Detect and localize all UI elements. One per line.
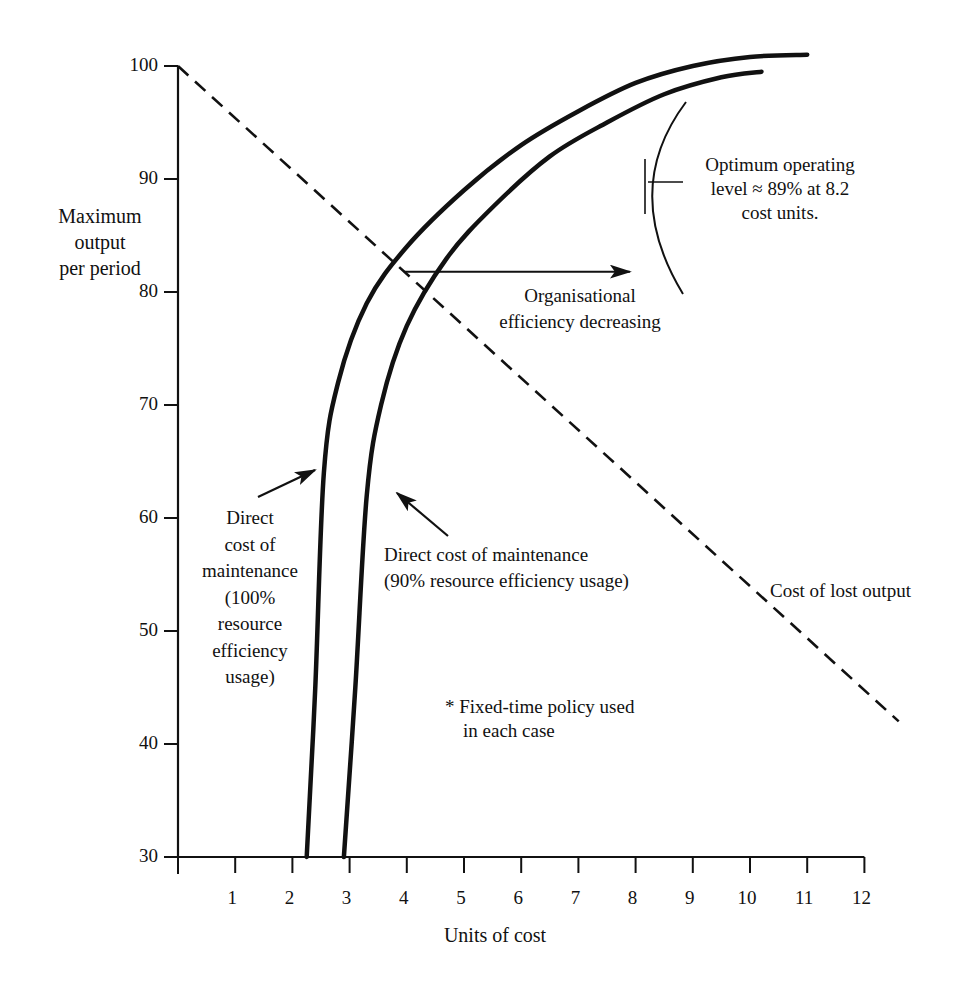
- annotation-line: maintenance: [190, 558, 310, 585]
- x-tick-label: 5: [446, 887, 476, 909]
- x-axis-label: Units of cost: [420, 924, 570, 946]
- annotation-line: * Fixed-time policy used: [445, 695, 634, 719]
- x-tick-label: 3: [332, 887, 362, 909]
- y-axis-label-line: per period: [40, 255, 160, 281]
- annotation-line: cost of: [190, 532, 310, 559]
- x-tick-label: 10: [732, 887, 762, 909]
- x-tick-label: 6: [503, 887, 533, 909]
- annotation-line: (100%: [190, 585, 310, 612]
- y-tick-label: 100: [112, 54, 158, 76]
- dc100-pointer-arrow: [258, 470, 315, 497]
- optimum-annotation: Optimum operating level ≈ 89% at 8.2 cos…: [690, 153, 870, 225]
- annotation-line: usage): [190, 664, 310, 691]
- annotation-line: (90% resource efficiency usage): [384, 568, 629, 594]
- annotation-line: efficiency: [190, 638, 310, 665]
- annotation-line: Direct: [190, 505, 310, 532]
- x-tick-label: 7: [560, 887, 590, 909]
- annotation-line: Optimum operating: [690, 153, 870, 177]
- annotation-line: in each case: [445, 719, 634, 743]
- annotation-line: Organisational: [470, 283, 690, 309]
- dc90-annotation: Direct cost of maintenance (90% resource…: [384, 542, 629, 594]
- x-tick-label: 2: [274, 887, 304, 909]
- y-tick-label: 70: [112, 393, 158, 415]
- x-tick-label: 8: [618, 887, 648, 909]
- y-tick-label: 80: [112, 280, 158, 302]
- y-axis-label-line: output: [40, 229, 160, 255]
- fixed-time-note: * Fixed-time policy used in each case: [445, 695, 634, 743]
- x-tick-label: 12: [846, 887, 876, 909]
- annotation-line: resource: [190, 611, 310, 638]
- annotation-line: cost units.: [690, 201, 870, 225]
- lost-output-label: Cost of lost output: [770, 580, 911, 602]
- org-efficiency-annotation: Organisational efficiency decreasing: [470, 283, 690, 335]
- y-tick-label: 40: [112, 732, 158, 754]
- x-tick-label: 1: [217, 887, 247, 909]
- y-tick-label: 90: [112, 167, 158, 189]
- y-tick-label: 30: [112, 845, 158, 867]
- y-tick-label: 60: [112, 506, 158, 528]
- x-tick-label: 9: [675, 887, 705, 909]
- y-axis-label-line: Maximum: [40, 203, 160, 229]
- y-axis-label: Maximum output per period: [40, 203, 160, 281]
- x-tick-label: 4: [389, 887, 419, 909]
- annotation-line: level ≈ 89% at 8.2: [690, 177, 870, 201]
- dc100-annotation: Direct cost of maintenance (100% resourc…: [190, 505, 310, 691]
- annotation-line: efficiency decreasing: [470, 309, 690, 335]
- optimum-bracket-arc: [652, 102, 686, 294]
- y-tick-label: 50: [112, 619, 158, 641]
- x-tick-label: 11: [789, 887, 819, 909]
- chart-canvas: [0, 0, 974, 987]
- annotation-line: Direct cost of maintenance: [384, 542, 629, 568]
- dc90-pointer-arrow: [397, 493, 448, 536]
